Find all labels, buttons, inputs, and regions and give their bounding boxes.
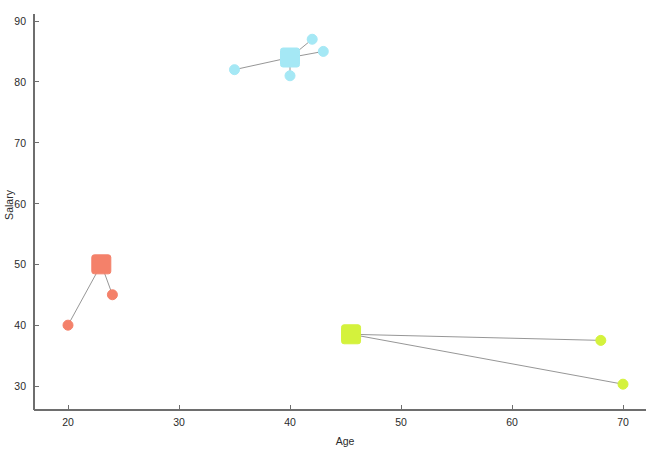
x-tick-label: 40	[284, 416, 296, 428]
x-tick-label: 60	[506, 416, 518, 428]
data-point	[107, 290, 117, 300]
plot-canvas: 30405060708090203040506070AgeSalary	[0, 0, 647, 453]
y-tick-label: 40	[14, 319, 26, 331]
axes	[34, 14, 646, 410]
cluster-link	[351, 334, 623, 384]
scatter-chart: 30405060708090203040506070AgeSalary	[0, 0, 647, 453]
data-point	[230, 65, 240, 75]
data-point	[285, 71, 295, 81]
data-point	[307, 34, 317, 44]
x-tick-label: 20	[62, 416, 74, 428]
axis-labels: 30405060708090203040506070AgeSalary	[3, 15, 629, 447]
cluster-centroids	[92, 48, 361, 344]
cluster-centroid	[281, 48, 300, 67]
data-point	[63, 320, 73, 330]
y-tick-label: 30	[14, 380, 26, 392]
x-axis-title: Age	[336, 435, 355, 447]
x-tick-label: 70	[617, 416, 629, 428]
y-tick-label: 70	[14, 137, 26, 149]
x-tick-label: 50	[395, 416, 407, 428]
y-axis-title: Salary	[3, 189, 15, 220]
data-point	[618, 379, 628, 389]
y-tick-label: 60	[14, 198, 26, 210]
data-point	[596, 335, 606, 345]
y-tick-label: 80	[14, 76, 26, 88]
data-point	[318, 46, 328, 56]
cluster-centroid	[92, 255, 111, 274]
cluster-link	[351, 334, 601, 340]
cluster-centroid	[342, 325, 361, 344]
x-tick-label: 30	[173, 416, 185, 428]
y-tick-label: 50	[14, 258, 26, 270]
y-tick-label: 90	[14, 15, 26, 27]
